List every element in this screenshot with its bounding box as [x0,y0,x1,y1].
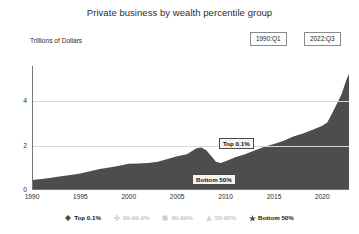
x-tick-label: 2000 [121,193,136,200]
legend-item-label: 90-99% [171,214,192,222]
legend-item-label: 99-99.9% [123,214,150,222]
legend-item-50-90[interactable]: 50-90% [206,214,236,222]
y-tick-label: 4 [13,97,27,104]
x-tick-label: 1990 [25,193,40,200]
end-date-selector[interactable]: 2022:Q3 [304,32,341,46]
annotation-top-01: Top 0.1% [219,138,254,149]
plus-marker-icon [114,215,120,221]
page-title: Private business by wealth percentile gr… [0,7,359,18]
x-tick-label: 2020 [315,193,330,200]
legend-item-label: 50-90% [215,214,236,222]
legend-item-bottom-50[interactable]: Bottom 50% [249,214,294,222]
legend-item-99-99-9[interactable]: 99-99.9% [114,214,150,222]
y-tick-label: 2 [13,142,27,149]
gridline [32,101,349,102]
x-axis-line [32,189,349,190]
legend-item-label: Top 0.1% [74,214,101,222]
star-marker-icon [249,215,255,221]
legend-item-90-99[interactable]: 90-99% [162,214,192,222]
y-axis-line [32,66,33,190]
chart-legend: Top 0.1%99-99.9%90-99%50-90%Bottom 50% [0,214,359,222]
legend-item-top-0-1[interactable]: Top 0.1% [65,214,101,222]
x-tick-label: 2015 [267,193,282,200]
gridline [32,146,349,147]
x-tick-label: 2005 [170,193,185,200]
chart-root: Private business by wealth percentile gr… [0,0,359,234]
x-tick-label: 2010 [218,193,233,200]
y-tick-label: 0 [13,186,27,193]
start-date-selector[interactable]: 1990:Q1 [250,32,287,46]
y-axis-label: Trillions of Dollars [30,37,82,44]
triangle-marker-icon [206,215,212,221]
annotation-bottom-50: Bottom 50% [192,174,236,185]
diamond-marker-icon [65,215,71,221]
x-tick-label: 1995 [73,193,88,200]
area-series-top-01 [32,66,349,190]
square-marker-icon [162,215,168,221]
legend-item-label: Bottom 50% [258,214,294,222]
plot-area [32,66,349,190]
